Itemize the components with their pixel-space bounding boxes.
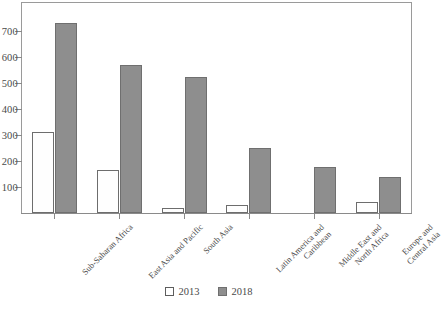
x-axis-tick [184,214,185,219]
x-axis-tick [54,214,55,219]
y-axis-tick-label: 600 [0,52,18,63]
y-axis-tick-label: 100 [0,182,18,193]
bar-2018-europe-and-central-asia[interactable] [379,177,401,213]
filled-square-swatch-icon [218,287,227,296]
bar-2013-sub-saharan-africa[interactable] [32,132,54,213]
y-axis-tick-label: 700 [0,26,18,37]
category-label-sub-saharan-africa: Sub-Saharan Africa [80,222,135,277]
open-square-swatch-icon [165,287,174,296]
x-axis-tick [249,214,250,219]
category-label-line: South Asia [201,222,235,256]
x-axis-tick [379,214,380,219]
x-axis-tick [119,214,120,219]
category-label-europe-and-central-asia: Europe andCentral Asia [397,222,441,266]
y-axis-tick-label: 500 [0,78,18,89]
x-axis-tick [314,214,315,219]
legend-label-2018: 2018 [232,286,253,297]
bar-2018-latin-america-and-caribbean[interactable] [249,148,271,213]
bar-2013-south-asia[interactable] [162,208,184,213]
category-label-line: East Asia and Pacific [147,222,206,281]
bar-2018-sub-saharan-africa[interactable] [55,23,77,213]
legend-item-2018[interactable]: 2018 [218,286,253,297]
category-label-south-asia: South Asia [201,222,235,256]
legend-item-2013[interactable]: 2013 [165,286,200,297]
category-label-line: Sub-Saharan Africa [80,222,135,277]
legend-label-2013: 2013 [179,286,200,297]
legend: 2013 2018 [0,286,417,297]
plot-area [21,2,412,214]
bar-2018-middle-east-and-north-africa[interactable] [314,167,336,213]
bar-2013-latin-america-and-caribbean[interactable] [226,205,248,213]
y-axis-tick-label: 400 [0,104,18,115]
category-label-east-asia-and-pacific: East Asia and Pacific [147,222,206,281]
x-axis-baseline [21,213,412,214]
category-label-middle-east-and-north-africa: Middle East andNorth Africa [336,222,390,276]
category-label-latin-america-and-caribbean: Latin America andCaribbean [274,222,333,281]
bar-2018-south-asia[interactable] [185,77,207,213]
y-axis-tick-label: 300 [0,130,18,141]
y-axis-tick-label: 200 [0,156,18,167]
bar-2013-europe-and-central-asia[interactable] [356,202,378,213]
bar-2013-east-asia-and-pacific[interactable] [97,170,119,213]
bar-2018-east-asia-and-pacific[interactable] [120,65,142,213]
